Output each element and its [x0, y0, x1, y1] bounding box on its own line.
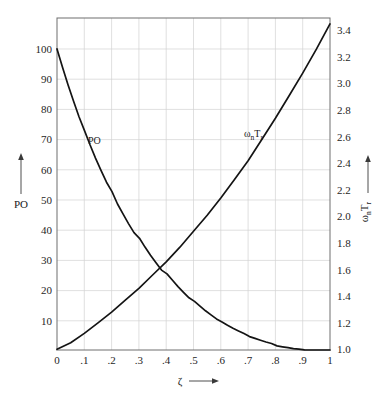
right-tick-3-4: 3.4 — [337, 24, 351, 36]
left-tick-30: 30 — [41, 254, 53, 266]
left-tick-60: 60 — [41, 164, 53, 176]
right-tick-1-6: 1.6 — [337, 264, 351, 276]
right-tick-1-4: 1.4 — [337, 290, 351, 302]
left-tick-90: 90 — [41, 73, 53, 85]
right-tick-3-2: 3.2 — [337, 51, 351, 63]
annotation-po: PO — [88, 135, 101, 146]
x-tick-4: .4 — [162, 354, 171, 366]
left-tick-80: 80 — [41, 103, 53, 115]
x-tick-1: .1 — [80, 354, 88, 366]
x-tick-7: .7 — [244, 354, 253, 366]
right-tick-1-0: 1.0 — [337, 343, 351, 355]
left-axis-title: PO — [14, 198, 28, 210]
x-tick-5: .5 — [189, 354, 198, 366]
chart-figure: 10 20 30 40 50 60 70 80 90 100 1.0 1.2 1… — [0, 0, 379, 396]
right-tick-2-0: 2.0 — [337, 210, 351, 222]
right-axis-tick-labels: 1.0 1.2 1.4 1.6 1.8 2.0 2.2 2.4 2.6 2.8 … — [337, 24, 351, 355]
x-tick-2: .2 — [107, 354, 115, 366]
right-tick-2-8: 2.8 — [337, 104, 351, 116]
left-tick-50: 50 — [41, 194, 53, 206]
right-tick-1-2: 1.2 — [337, 317, 351, 329]
x-tick-8: .8 — [271, 354, 280, 366]
right-tick-2-2: 2.2 — [337, 184, 351, 196]
x-tick-9: .9 — [299, 354, 308, 366]
left-axis-tick-labels: 10 20 30 40 50 60 70 80 90 100 — [36, 43, 53, 327]
x-axis-arrow-head — [212, 378, 219, 384]
left-tick-70: 70 — [41, 133, 53, 145]
x-axis-title-group: ζ — [178, 375, 219, 388]
left-tick-40: 40 — [41, 224, 53, 236]
left-tick-10: 10 — [41, 315, 53, 327]
left-tick-20: 20 — [41, 284, 53, 296]
x-tick-3: .3 — [135, 354, 144, 366]
x-axis-title: ζ — [178, 375, 183, 388]
left-axis-title-group: PO — [14, 153, 28, 210]
x-axis-tick-labels: 0 .1 .2 .3 .4 .5 .6 .7 .8 .9 1 — [54, 354, 333, 366]
right-tick-1-8: 1.8 — [337, 237, 351, 249]
right-axis-arrow-head — [365, 155, 371, 162]
x-tick-10: 1 — [327, 354, 333, 366]
chart-svg: 10 20 30 40 50 60 70 80 90 100 1.0 1.2 1… — [0, 0, 379, 396]
right-tick-2-6: 2.6 — [337, 131, 351, 143]
right-tick-3-0: 3.0 — [337, 77, 351, 89]
x-tick-6: .6 — [217, 354, 226, 366]
left-tick-100: 100 — [36, 43, 53, 55]
right-axis-title: ωnTr — [358, 201, 373, 222]
left-axis-arrow-head — [18, 153, 24, 160]
right-axis-title-group: ωnTr — [358, 155, 373, 222]
x-tick-0: 0 — [54, 354, 60, 366]
right-tick-2-4: 2.4 — [337, 157, 351, 169]
